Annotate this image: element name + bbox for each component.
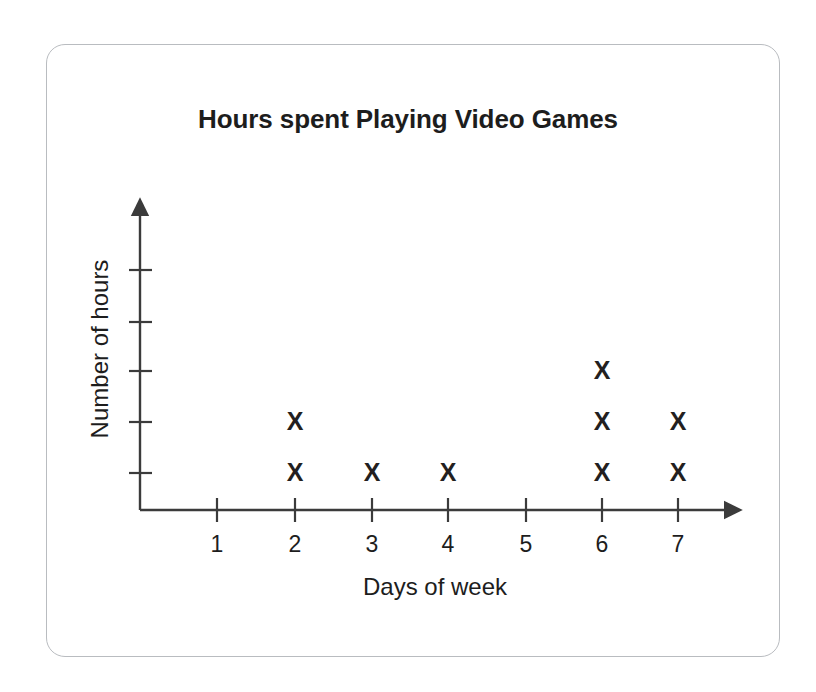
data-point-x-mark: X: [440, 458, 457, 486]
data-point-x-mark: X: [594, 458, 611, 486]
data-point-x-mark: X: [594, 356, 611, 384]
data-point-x-mark: X: [287, 407, 304, 435]
data-point-x-mark: X: [287, 458, 304, 486]
data-point-x-mark: X: [670, 458, 687, 486]
x-tick-label: 2: [289, 531, 302, 557]
data-point-x-mark: X: [594, 407, 611, 435]
chart-page: Hours spent Playing Video Games: [0, 0, 816, 692]
x-tick-label: 5: [520, 531, 533, 557]
x-tick-label: 7: [672, 531, 685, 557]
x-axis: 1 2 3 4 5 6 7: [140, 498, 726, 557]
x-tick-label: 6: [596, 531, 609, 557]
y-axis-title: Number of hours: [86, 204, 114, 494]
data-point-x-mark: X: [364, 458, 381, 486]
x-tick-label: 3: [366, 531, 379, 557]
x-tick-label: 4: [442, 531, 455, 557]
x-tick-label: 1: [211, 531, 224, 557]
data-markers: XXXXXXXXX: [287, 356, 687, 486]
x-axis-title: Days of week: [140, 573, 730, 601]
data-point-x-mark: X: [670, 407, 687, 435]
y-axis: [129, 214, 152, 510]
